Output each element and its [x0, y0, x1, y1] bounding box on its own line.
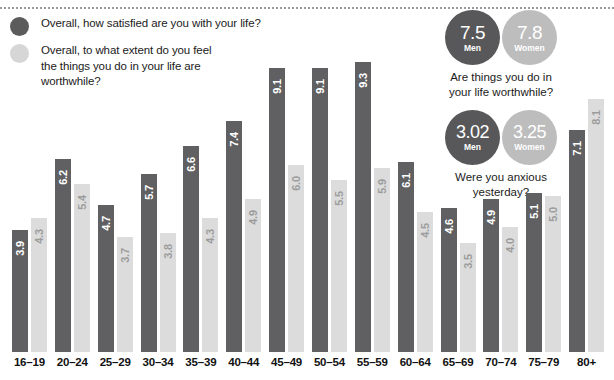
bar-worthwhile: 6.0: [288, 165, 304, 352]
bar-value-label: 6.6: [186, 157, 197, 172]
bar-group: 6.64.3: [183, 146, 218, 352]
bar-worthwhile: 4.3: [31, 218, 47, 352]
bar-satisfied: 9.3: [355, 62, 371, 352]
bar-satisfied: 3.9: [12, 230, 28, 352]
bar-chart-plot-area: 3.94.36.25.44.73.75.73.86.64.37.44.99.16…: [8, 40, 608, 352]
x-axis-tick-label: 65–69: [437, 356, 480, 368]
bar-value-label: 4.3: [205, 229, 216, 244]
x-axis-tick-label: 40–44: [222, 356, 265, 368]
x-axis-tick-label: 75–79: [522, 356, 565, 368]
bar-value-label: 5.5: [333, 192, 344, 207]
bar-worthwhile: 3.5: [460, 243, 476, 352]
bar-satisfied: 4.9: [483, 199, 499, 352]
bar-value-label: 9.3: [357, 73, 368, 88]
x-axis-labels: 16–1920–2425–2930–3435–3940–4445–4950–54…: [8, 356, 608, 376]
x-axis-tick-label: 30–34: [137, 356, 180, 368]
bar-group: 4.94.0: [483, 199, 518, 352]
bar-value-label: 3.9: [14, 241, 25, 256]
bar-group: 4.73.7: [98, 205, 133, 352]
bar-worthwhile: 4.0: [502, 227, 518, 352]
bar-value-label: 9.1: [272, 79, 283, 94]
bar-satisfied: 7.1: [569, 130, 585, 352]
bar-value-label: 4.0: [505, 238, 516, 253]
bar-group: 9.35.9: [355, 62, 390, 352]
x-axis-tick-label: 25–29: [94, 356, 137, 368]
bar-value-label: 4.9: [486, 210, 497, 225]
bar-value-label: 6.0: [291, 176, 302, 191]
bar-worthwhile: 5.5: [331, 180, 347, 352]
x-axis-tick-label: 50–54: [308, 356, 351, 368]
bar-value-label: 3.7: [119, 248, 130, 263]
bar-satisfied: 5.1: [526, 193, 542, 352]
bar-group: 4.63.5: [441, 208, 476, 352]
bar-value-label: 7.4: [229, 132, 240, 147]
bar-satisfied: 6.6: [183, 146, 199, 352]
bar-value-label: 4.3: [33, 229, 44, 244]
bar-group: 6.25.4: [55, 159, 90, 352]
bar-value-label: 5.7: [143, 185, 154, 200]
bar-worthwhile: 4.3: [202, 218, 218, 352]
bar-satisfied: 5.7: [141, 174, 157, 352]
callout-value: 7.8: [517, 23, 542, 42]
bar-satisfied: 9.1: [312, 68, 328, 352]
x-axis-tick-label: 35–39: [179, 356, 222, 368]
bar-value-label: 5.0: [548, 207, 559, 222]
bar-group: 5.73.8: [141, 174, 176, 352]
bar-worthwhile: 4.5: [417, 212, 433, 352]
bar-value-label: 5.9: [376, 179, 387, 194]
circle-dark-icon: [10, 17, 29, 36]
bar-worthwhile: 3.7: [117, 237, 133, 352]
bar-group: 5.15.0: [526, 193, 561, 352]
bar-value-label: 5.1: [529, 204, 540, 219]
bar-group: 3.94.3: [12, 218, 47, 352]
bar-value-label: 4.7: [100, 217, 111, 232]
bar-satisfied: 7.4: [226, 121, 242, 352]
bar-value-label: 3.8: [162, 245, 173, 260]
x-axis-tick-label: 16–19: [8, 356, 51, 368]
bar-worthwhile: 4.9: [245, 199, 261, 352]
bar-satisfied: 9.1: [269, 68, 285, 352]
bar-satisfied: 6.1: [398, 162, 414, 352]
bar-worthwhile: 5.0: [545, 196, 561, 352]
bar-worthwhile: 3.8: [160, 233, 176, 352]
x-axis-tick-label: 20–24: [51, 356, 94, 368]
bar-group: 7.18.1: [569, 99, 604, 352]
bar-value-label: 3.5: [462, 254, 473, 269]
top-dotted-divider: [0, 7, 614, 9]
bar-value-label: 5.4: [76, 195, 87, 210]
bar-value-label: 4.5: [419, 223, 430, 238]
bar-group: 9.15.5: [312, 68, 347, 352]
bar-value-label: 4.9: [248, 210, 259, 225]
bar-worthwhile: 5.4: [74, 184, 90, 352]
x-axis-tick-label: 60–64: [394, 356, 437, 368]
x-axis-tick-label: 80+: [565, 356, 608, 368]
x-axis-tick-label: 55–59: [351, 356, 394, 368]
bar-value-label: 4.6: [443, 220, 454, 235]
bar-value-label: 6.1: [400, 173, 411, 188]
bar-satisfied: 4.6: [441, 208, 457, 352]
bar-group: 9.16.0: [269, 68, 304, 352]
callout-value: 7.5: [460, 23, 485, 42]
bar-satisfied: 4.7: [98, 205, 114, 352]
bar-worthwhile: 5.9: [374, 168, 390, 352]
legend-item-label: Overall, how satisfied are you with your…: [41, 16, 261, 32]
bar-group: 6.14.5: [398, 162, 433, 352]
x-axis-tick-label: 70–74: [479, 356, 522, 368]
bar-value-label: 7.1: [572, 142, 583, 157]
bar-value-label: 9.1: [314, 79, 325, 94]
bar-worthwhile: 8.1: [588, 99, 604, 352]
bar-group: 7.44.9: [226, 121, 261, 352]
bar-satisfied: 6.2: [55, 159, 71, 352]
legend-item-satisfied: Overall, how satisfied are you with your…: [10, 16, 310, 36]
bar-value-label: 6.2: [57, 170, 68, 185]
bar-value-label: 8.1: [591, 110, 602, 125]
x-axis-tick-label: 45–49: [265, 356, 308, 368]
